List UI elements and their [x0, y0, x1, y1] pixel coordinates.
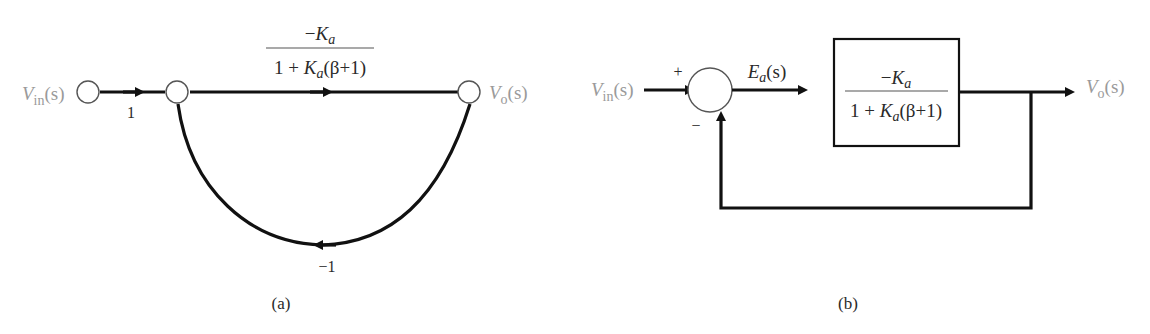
summing-junction	[688, 68, 732, 112]
figure-a-signal-flow-graph: Vin(s) 1 −Ka 1 + Ka(β+1) Vo(s) −1	[22, 23, 528, 313]
forward-gain-numerator: −Ka	[305, 23, 335, 47]
vin-label-a: Vin(s)	[22, 83, 65, 108]
input-node	[77, 81, 99, 103]
figure-b-block-diagram: Vin(s) + − Ea(s) −Ka 1 + Ka(β+1) Vo(s) (…	[591, 39, 1125, 313]
sum-node	[166, 81, 188, 103]
error-label: Ea(s)	[747, 61, 787, 85]
feedback-arc-right	[322, 104, 470, 245]
caption-a: (a)	[272, 294, 291, 313]
diagram-canvas: Vin(s) 1 −Ka 1 + Ka(β+1) Vo(s) −1	[0, 0, 1150, 334]
minus-sign: −	[691, 117, 700, 134]
vo-label-a: Vo(s)	[489, 82, 528, 107]
caption-b: (b)	[838, 294, 858, 313]
gain-block	[834, 39, 959, 146]
output-node	[458, 81, 480, 103]
vo-label-b: Vo(s)	[1086, 76, 1125, 101]
vin-label-b: Vin(s)	[591, 79, 634, 104]
plus-sign: +	[673, 63, 682, 80]
forward-gain-denominator: 1 + Ka(β+1)	[274, 57, 366, 81]
input-gain-label: 1	[127, 104, 135, 121]
feedback-arc-left	[178, 104, 322, 245]
feedback-gain-label: −1	[318, 258, 335, 275]
